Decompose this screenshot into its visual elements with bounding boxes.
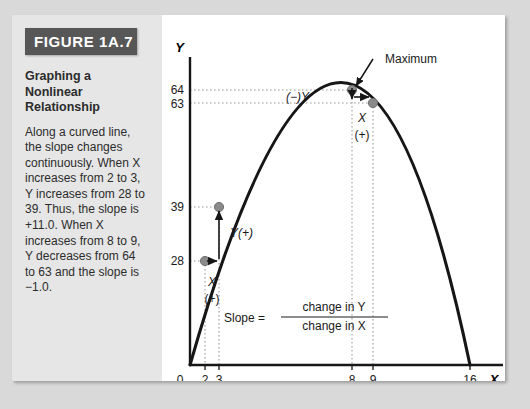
y-positive-annotation: Y(+) [230, 226, 253, 240]
data-point-markers [200, 85, 377, 265]
x-tick-8: 8 [349, 373, 356, 381]
y-tick-63: 63 [171, 97, 185, 111]
data-point-9-63 [368, 98, 377, 107]
x-positive-left-label: X [207, 275, 217, 289]
y-tick-28: 28 [171, 254, 185, 268]
x-positive-left-sign: (+) [205, 292, 220, 306]
figure-number-badge: FIGURE 1A.7 [25, 28, 137, 55]
y-tick-64: 64 [171, 83, 185, 97]
slope-numerator: change in Y [302, 300, 365, 314]
x-positive-right-label: X [357, 111, 367, 125]
x-axis-label: X [489, 372, 500, 381]
figure-title: Graphing a Nonlinear Relationship [25, 69, 140, 116]
origin-label: 0 [177, 373, 184, 381]
nonlinear-relationship-chart: 64 63 39 28 2 3 8 9 16 0 Y X Maximum (−)… [162, 15, 505, 381]
x-positive-right-sign: (+) [355, 128, 370, 142]
slope-formula-label: Slope = [224, 311, 265, 325]
maximum-annotation: Maximum [385, 52, 437, 66]
y-axis-label: Y [175, 40, 185, 55]
x-tick-3: 3 [216, 373, 223, 381]
y-negative-annotation: (−)Y [286, 90, 310, 104]
maximum-pointer-arrow [356, 59, 373, 86]
x-tick-2: 2 [202, 373, 209, 381]
y-tick-39: 39 [171, 200, 185, 214]
figure-panel: FIGURE 1A.7 Graphing a Nonlinear Relatio… [12, 15, 505, 381]
figure-caption-column: FIGURE 1A.7 Graphing a Nonlinear Relatio… [12, 15, 162, 381]
figure-description: Along a curved line, the slope changes c… [25, 125, 147, 297]
slope-denominator: change in X [302, 319, 365, 333]
x-tick-16: 16 [463, 373, 477, 381]
x-tick-9: 9 [370, 373, 377, 381]
data-point-3-39 [214, 202, 223, 211]
chart-plot-area: 64 63 39 28 2 3 8 9 16 0 Y X Maximum (−)… [162, 15, 505, 381]
